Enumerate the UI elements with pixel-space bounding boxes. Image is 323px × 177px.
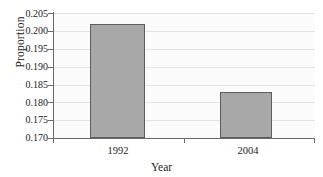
y-tick-label: 0.200	[14, 26, 48, 36]
bar-chart-figure: Proportion 0.205 0.200 0.195 0.190 0.185…	[0, 0, 323, 177]
y-tick-label: 0.205	[14, 9, 48, 19]
y-tick-label: 0.170	[14, 133, 48, 143]
y-tick-label: 0.195	[14, 44, 48, 54]
x-tick-label-1992: 1992	[88, 145, 148, 157]
y-tick-label: 0.180	[14, 98, 48, 108]
x-tick-mark	[314, 139, 315, 143]
bar-1992[interactable]	[90, 24, 145, 138]
x-tick-mark	[53, 139, 54, 143]
bar-2004[interactable]	[220, 92, 272, 138]
x-axis-label: Year	[0, 160, 323, 174]
x-tick-label-2004: 2004	[218, 145, 278, 157]
y-tick-label: 0.175	[14, 115, 48, 125]
y-axis-tick-labels: 0.205 0.200 0.195 0.190 0.185 0.180 0.17…	[14, 0, 48, 177]
gridline	[53, 13, 315, 14]
plot-area	[53, 13, 315, 138]
x-tick-mark	[184, 139, 185, 143]
y-tick-label: 0.190	[14, 62, 48, 72]
y-axis-line	[53, 12, 54, 139]
y-tick-label: 0.185	[14, 80, 48, 90]
